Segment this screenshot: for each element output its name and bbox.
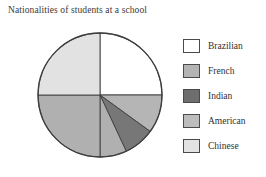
- pie-svg: [37, 32, 163, 158]
- legend-label-indian: Indian: [208, 91, 232, 102]
- legend-label-american: American: [208, 116, 245, 127]
- legend-swatch-chinese: [183, 139, 200, 153]
- legend-label-french: French: [208, 66, 234, 77]
- pie-slice-brazilian-0[interactable]: [100, 33, 162, 95]
- pie-chart-graphic: [37, 32, 163, 158]
- legend-swatch-american: [183, 114, 200, 128]
- pie-chart-figure: Nationalities of students at a school Br…: [0, 0, 266, 177]
- chart-legend: Brazilian French Indian American Chinese: [183, 38, 263, 154]
- legend-item-french[interactable]: French: [183, 63, 263, 79]
- legend-label-chinese: Chinese: [208, 141, 239, 152]
- pie-slice-chinese-4[interactable]: [38, 95, 100, 157]
- legend-swatch-brazilian: [183, 39, 200, 53]
- pie-slice-chinese-5[interactable]: [38, 33, 100, 95]
- legend-item-brazilian[interactable]: Brazilian: [183, 38, 263, 54]
- legend-swatch-french: [183, 64, 200, 78]
- legend-item-indian[interactable]: Indian: [183, 88, 263, 104]
- legend-label-brazilian: Brazilian: [208, 41, 243, 52]
- legend-item-american[interactable]: American: [183, 113, 263, 129]
- legend-item-chinese[interactable]: Chinese: [183, 138, 263, 154]
- chart-title: Nationalities of students at a school: [8, 4, 147, 16]
- legend-swatch-indian: [183, 89, 200, 103]
